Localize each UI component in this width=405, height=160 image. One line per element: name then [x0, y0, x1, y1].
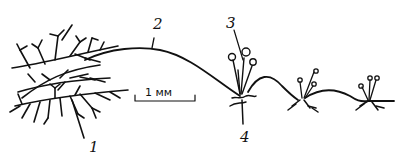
label-1: 1	[89, 138, 99, 156]
label-4: 4	[239, 128, 250, 146]
label-3: 3	[226, 14, 236, 32]
scale-bar-label: 1 мм	[145, 86, 172, 99]
rhizoids	[230, 95, 384, 124]
fungus-diagram: 1 мм 1 2 3 4	[0, 0, 405, 160]
branched-mycelium	[10, 25, 128, 138]
label-2: 2	[152, 15, 163, 33]
